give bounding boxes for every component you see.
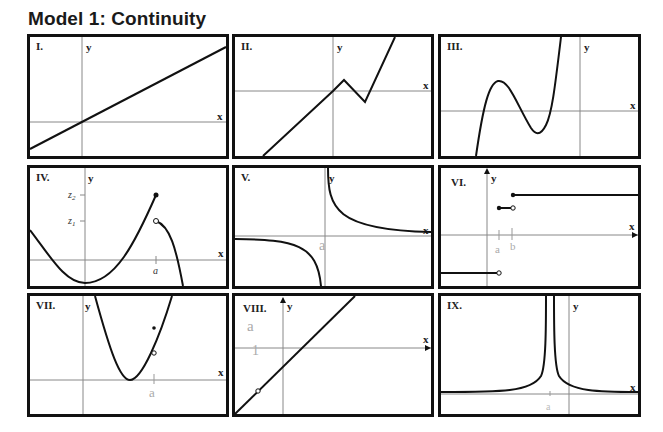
a-label: a — [153, 265, 158, 276]
open-point — [256, 389, 260, 393]
handwritten-b: b — [510, 240, 516, 252]
left-branch — [235, 239, 321, 286]
y-axis-label: y — [85, 300, 91, 312]
piecewise-curve — [263, 37, 395, 156]
handwritten-a: a — [495, 243, 500, 255]
panel-label: VI. — [451, 176, 466, 188]
graph-panel-1: x y I. — [27, 34, 229, 159]
graph-2-plot: x y — [235, 37, 431, 156]
cubic-curve — [476, 37, 561, 156]
x-axis-label: x — [629, 220, 635, 232]
graph-3-plot: x y — [441, 37, 638, 156]
open-point — [511, 206, 515, 210]
graph-5-plot: x y a — [235, 168, 431, 286]
graph-panel-4: x y z2 z1 a IV. — [27, 165, 229, 289]
x-axis-arrow-icon — [425, 345, 431, 351]
y-axis-label: y — [573, 300, 579, 312]
z1-label: z1 — [67, 215, 75, 228]
right-branch — [328, 168, 431, 232]
handwritten-a: a — [149, 385, 155, 400]
graph-panel-3: x y III. — [438, 34, 641, 159]
y-axis-arrow-icon — [484, 168, 490, 174]
x-axis-label: x — [218, 247, 224, 259]
graph-panel-2: x y II. — [232, 34, 434, 159]
y-axis-arrow-icon — [280, 297, 286, 303]
page-title: Model 1: Continuity — [28, 8, 206, 30]
panel-label: IV. — [36, 171, 50, 183]
graph-panel-6: x y a b VI. — [438, 165, 641, 289]
x-axis-label: x — [630, 99, 636, 111]
y-axis-label: y — [584, 41, 590, 53]
x-axis-label: x — [423, 333, 429, 345]
graph-panel-9: x y a IX. — [438, 293, 641, 417]
left-curve — [30, 195, 156, 283]
closed-point — [497, 206, 501, 210]
handwritten-a: a — [247, 318, 254, 334]
right-branch — [554, 296, 638, 392]
graph-6-plot: x y a b — [441, 168, 638, 286]
parabola-curve — [95, 296, 172, 380]
open-point — [497, 271, 501, 275]
y-axis-label: y — [329, 172, 335, 184]
y-axis-label: y — [287, 300, 293, 312]
y-axis-label: y — [86, 41, 92, 53]
y-axis-label: y — [491, 172, 497, 184]
y-axis-label: y — [337, 41, 343, 53]
panel-label: VII. — [36, 299, 55, 311]
line-curve — [30, 47, 226, 149]
closed-point — [511, 193, 515, 197]
x-axis-label: x — [217, 110, 223, 122]
handwritten-a: a — [319, 238, 326, 253]
panel-label: III. — [447, 40, 463, 52]
graph-4-plot: x y z2 z1 a — [30, 168, 226, 286]
panel-label: I. — [36, 40, 43, 52]
x-axis-label: x — [423, 224, 429, 236]
open-point — [152, 351, 156, 355]
z2-label: z2 — [67, 189, 76, 202]
panel-label: II. — [241, 40, 252, 52]
panel-label: VIII. — [243, 302, 267, 314]
open-point — [154, 219, 159, 224]
x-axis-arrow-icon — [632, 232, 638, 238]
graph-7-plot: x y a — [30, 296, 226, 414]
closed-point — [154, 193, 159, 198]
right-curve — [156, 221, 183, 286]
graph-panel-8: x y a 1 VIII. — [232, 293, 434, 417]
closed-point — [152, 326, 156, 330]
panel-label: V. — [241, 171, 250, 183]
y-axis-label: y — [88, 172, 94, 184]
graph-panel-7: x y a VII. — [27, 293, 229, 417]
graph-9-plot: x y a — [441, 296, 638, 414]
handwritten-1: 1 — [252, 343, 259, 358]
handwritten-a: a — [546, 401, 551, 412]
graph-panel-5: x y a V. — [232, 165, 434, 289]
x-axis-label: x — [218, 366, 224, 378]
graph-1-plot: x y — [30, 37, 226, 156]
x-axis-label: x — [423, 79, 429, 91]
panel-label: IX. — [447, 299, 462, 311]
